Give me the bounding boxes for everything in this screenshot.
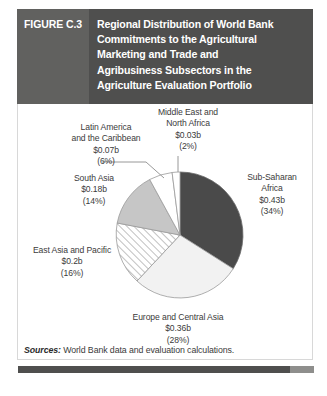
pie-chart-area: Latin America and the Caribbean $0.07b (… xyxy=(18,104,312,342)
bottom-rule-dark-segment xyxy=(18,366,290,373)
pie-label-south-asia: South Asia $0.18b (14%) xyxy=(56,173,132,207)
pie-label-east-asia-pacific: East Asia and Pacific $0.2b (16%) xyxy=(20,245,124,279)
bottom-rule-light-segment xyxy=(290,366,314,373)
figure-title-block: Regional Distribution of World Bank Comm… xyxy=(89,9,313,104)
pie-label-sub-saharan-africa: Sub-Saharan Africa $0.43b (34%) xyxy=(234,172,310,218)
sources-text: World Bank data and evaluation calculati… xyxy=(61,345,234,355)
pie-label-europe-central-asia: Europe and Central Asia $0.36b (28%) xyxy=(108,312,248,346)
bottom-rule xyxy=(18,366,314,373)
pie-slices xyxy=(116,172,243,298)
figure-header: FIGURE C.3 Regional Distribution of Worl… xyxy=(17,9,313,104)
figure-number-label: FIGURE C.3 xyxy=(17,18,89,30)
sources-line: Sources: World Bank data and evaluation … xyxy=(24,345,308,355)
pie-label-middle-east-north-africa: Middle East and North Africa $0.03b (2%) xyxy=(142,107,234,153)
figure-title: Regional Distribution of World Bank Comm… xyxy=(97,17,307,93)
sources-label: Sources: xyxy=(24,345,61,355)
figure-container: FIGURE C.3 Regional Distribution of Worl… xyxy=(0,0,327,396)
figure-number-block: FIGURE C.3 xyxy=(17,9,89,104)
